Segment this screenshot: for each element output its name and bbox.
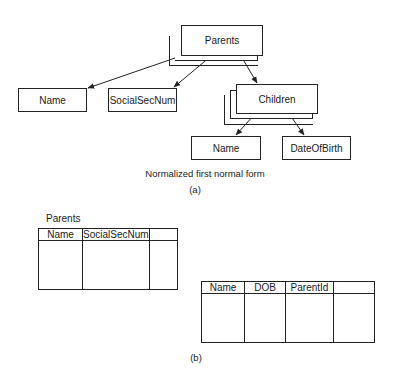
ssn-attribute-label: SocialSecNum xyxy=(110,95,176,106)
diagram-a-caption: Normalized first normal form xyxy=(140,168,270,179)
dob-attribute-label: DateOfBirth xyxy=(290,143,342,154)
parents-cell xyxy=(39,241,83,290)
children-table-body xyxy=(202,294,375,343)
diagram-a-sublabel: (a) xyxy=(185,184,205,195)
children-cell xyxy=(334,294,375,343)
parents-col-empty xyxy=(149,229,177,241)
parents-node: Parents xyxy=(181,25,263,56)
children-table-header: Name DOB ParentId xyxy=(202,282,375,294)
parents-table: Name SocialSecNum xyxy=(38,228,178,290)
parents-node-label: Parents xyxy=(205,35,239,46)
parents-table-body xyxy=(39,241,178,290)
children-col-empty xyxy=(334,282,375,294)
parents-col-ssn: SocialSecNum xyxy=(83,229,150,241)
children-cell xyxy=(202,294,245,343)
children-node: Children xyxy=(236,84,318,114)
name-attribute-node: Name xyxy=(18,88,87,112)
parents-cell xyxy=(149,241,177,290)
children-col-dob: DOB xyxy=(245,282,286,294)
children-node-label: Children xyxy=(258,94,295,105)
parents-table-title: Parents xyxy=(46,213,80,224)
parents-col-name: Name xyxy=(39,229,83,241)
children-col-parentid: ParentId xyxy=(286,282,334,294)
children-col-name: Name xyxy=(202,282,245,294)
diagram-b-sublabel: (b) xyxy=(186,352,206,363)
name-attribute-label: Name xyxy=(39,95,66,106)
children-cell xyxy=(245,294,286,343)
parents-table-header: Name SocialSecNum xyxy=(39,229,178,241)
children-cell xyxy=(286,294,334,343)
dob-attribute-node: DateOfBirth xyxy=(282,136,351,160)
children-table: Name DOB ParentId xyxy=(201,281,375,343)
child-name-attribute-label: Name xyxy=(213,143,240,154)
parents-cell xyxy=(83,241,150,290)
ssn-attribute-node: SocialSecNum xyxy=(108,88,177,112)
child-name-attribute-node: Name xyxy=(191,136,261,160)
